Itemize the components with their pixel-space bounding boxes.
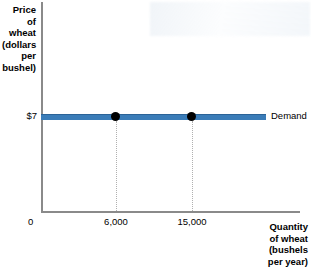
dropline-15000 [192, 121, 194, 211]
data-point-6000 [111, 112, 120, 121]
series-label-demand: Demand [271, 110, 307, 121]
origin-label: 0 [28, 216, 33, 227]
y-axis-title: Price of wheat (dollars per bushel) [2, 4, 36, 74]
x-tick-label-15000: 15,000 [162, 216, 222, 227]
x-axis-title-line-3: (bushels [232, 244, 308, 256]
y-axis-title-line-1: Price of [2, 4, 36, 27]
x-axis-title-line-1: Quantity [232, 221, 308, 233]
x-tick-label-6000: 6,000 [86, 216, 146, 227]
x-axis-title-line-4: per year) [232, 256, 308, 268]
x-axis-line [41, 211, 300, 213]
y-axis-title-line-5: bushel) [2, 62, 36, 74]
y-axis-title-line-3: (dollars [2, 39, 36, 51]
x-axis-title-line-2: of wheat [232, 233, 308, 245]
x-axis-title: Quantity of wheat (bushels per year) [232, 221, 308, 267]
y-axis-title-line-4: per [2, 50, 36, 62]
data-point-15000 [187, 112, 196, 121]
y-axis-title-line-2: wheat [2, 27, 36, 39]
demand-curve-line [41, 114, 266, 120]
y-axis-line [41, 2, 43, 213]
demand-curve-chart: Price of wheat (dollars per bushel) $7 0… [0, 0, 311, 273]
y-tick-label-price: $7 [6, 110, 37, 121]
background-watermark [150, 2, 310, 36]
dropline-6000 [116, 121, 118, 211]
